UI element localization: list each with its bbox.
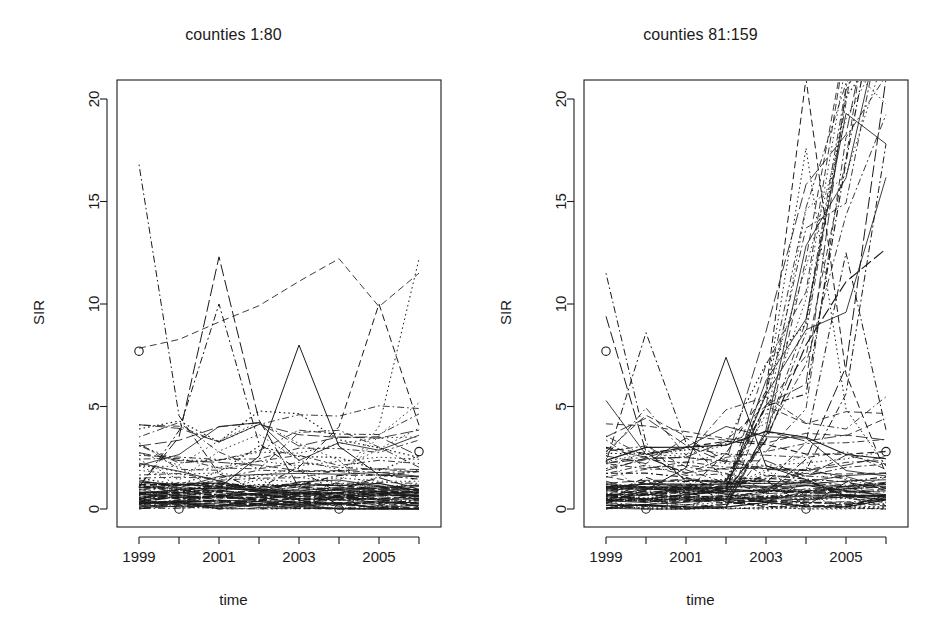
y-axis-label-right: SIR bbox=[497, 300, 514, 325]
series-line bbox=[606, 148, 886, 502]
y-axis-label-left: SIR bbox=[30, 300, 47, 325]
y-tick-label: 15 bbox=[552, 193, 569, 210]
x-tick-label: 1999 bbox=[589, 548, 622, 565]
series-line bbox=[606, 3, 886, 509]
series-line bbox=[139, 259, 419, 349]
series-line bbox=[606, 0, 886, 492]
plot-box bbox=[584, 80, 908, 527]
y-tick-label: 20 bbox=[85, 91, 102, 108]
series-line bbox=[606, 43, 886, 498]
series-line bbox=[606, 40, 886, 455]
x-tick-label: 1999 bbox=[122, 548, 155, 565]
x-axis-label-left: time bbox=[0, 591, 467, 608]
panel-counties-81-159: counties 81:159 051015201999200120032005… bbox=[467, 0, 934, 632]
series-line bbox=[606, 39, 886, 501]
series-line bbox=[139, 257, 419, 490]
data-point-marker bbox=[415, 447, 423, 455]
x-axis-label-right: time bbox=[467, 591, 934, 608]
series-line bbox=[606, 79, 886, 501]
y-tick-label: 15 bbox=[85, 193, 102, 210]
data-point-marker bbox=[602, 347, 610, 355]
series-line bbox=[606, 0, 886, 463]
x-tick-label: 2005 bbox=[362, 548, 395, 565]
y-tick-label: 0 bbox=[85, 505, 102, 513]
y-tick-label: 10 bbox=[552, 296, 569, 313]
series-lines-right bbox=[602, 0, 890, 513]
y-tick-label: 5 bbox=[85, 402, 102, 410]
panel-counties-1-80: counties 1:80 051015201999200120032005 t… bbox=[0, 0, 467, 632]
series-lines-left bbox=[135, 165, 423, 514]
series-line bbox=[606, 0, 886, 489]
series-line bbox=[139, 457, 419, 472]
series-line bbox=[606, 51, 886, 468]
plot-area-right: 051015201999200120032005 bbox=[467, 0, 934, 632]
y-tick-label: 20 bbox=[552, 91, 569, 108]
series-line bbox=[606, 79, 886, 496]
y-tick-label: 0 bbox=[552, 505, 569, 513]
series-line bbox=[139, 304, 419, 507]
x-tick-label: 2001 bbox=[669, 548, 702, 565]
series-line bbox=[606, 63, 886, 497]
series-line bbox=[606, 0, 886, 501]
series-line bbox=[606, 253, 886, 501]
figure-canvas: counties 1:80 051015201999200120032005 t… bbox=[0, 0, 934, 632]
plot-area-left: 051015201999200120032005 bbox=[0, 0, 467, 632]
x-tick-label: 2003 bbox=[282, 548, 315, 565]
y-tick-label: 5 bbox=[552, 402, 569, 410]
x-tick-label: 2001 bbox=[202, 548, 235, 565]
y-tick-label: 10 bbox=[85, 296, 102, 313]
x-tick-label: 2005 bbox=[829, 548, 862, 565]
x-tick-label: 2003 bbox=[749, 548, 782, 565]
